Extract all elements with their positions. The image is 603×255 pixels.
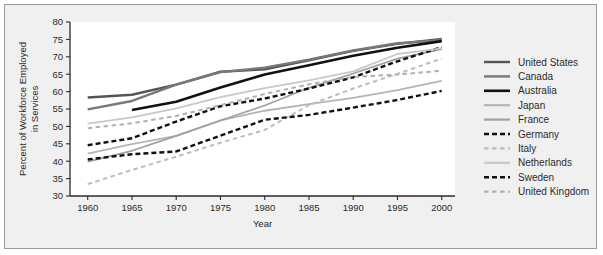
y-tick-label: 80 — [52, 16, 63, 27]
legend-label[interactable]: United Kingdom — [518, 186, 589, 197]
y-tick-label: 40 — [52, 156, 63, 167]
x-tick-label: 1965 — [121, 202, 142, 213]
x-tick-label: 1970 — [166, 202, 187, 213]
x-tick-label: 1980 — [254, 202, 275, 213]
legend-label[interactable]: Netherlands — [518, 157, 572, 168]
x-tick-label: 1960 — [77, 202, 98, 213]
y-tick-label: 70 — [52, 51, 63, 62]
y-tick-label: 35 — [52, 173, 63, 184]
x-axis-title-label: Year — [253, 218, 272, 229]
x-tick-label: 1995 — [387, 202, 408, 213]
chart-legend: United StatesCanadaAustraliaJapanFranceG… — [484, 57, 589, 198]
y-tick-label: 50 — [52, 121, 63, 132]
legend-label[interactable]: United States — [518, 57, 578, 68]
legend-label[interactable]: Japan — [518, 100, 545, 111]
y-axis-ticks: 3035404550556065707580 — [52, 16, 70, 201]
y-tick-label: 55 — [52, 103, 63, 114]
y-tick-label: 65 — [52, 69, 63, 80]
y-axis-title-line: in Services — [29, 86, 40, 133]
y-tick-label: 60 — [52, 86, 63, 97]
x-tick-label: 2000 — [431, 202, 452, 213]
x-tick-label: 1990 — [343, 202, 364, 213]
y-axis-title-line: Percent of Workforce Employed — [17, 42, 28, 176]
legend-label[interactable]: Italy — [518, 143, 536, 154]
x-axis-ticks: 196019651970197519801985199019952000 — [77, 196, 452, 213]
x-tick-label: 1985 — [298, 202, 319, 213]
y-axis-title: Percent of Workforce Employedin Services — [17, 42, 40, 176]
legend-label[interactable]: Australia — [518, 85, 557, 96]
y-tick-label: 75 — [52, 34, 63, 45]
y-tick-label: 30 — [52, 190, 63, 201]
legend-label[interactable]: Sweden — [518, 172, 554, 183]
legend-label[interactable]: Germany — [518, 129, 559, 140]
line-chart: 3035404550556065707580 19601965197019751… — [0, 0, 603, 255]
chart-figure: 3035404550556065707580 19601965197019751… — [0, 0, 603, 255]
y-tick-label: 45 — [52, 138, 63, 149]
legend-label[interactable]: France — [518, 114, 550, 125]
legend-label[interactable]: Canada — [518, 71, 553, 82]
x-tick-label: 1975 — [210, 202, 231, 213]
